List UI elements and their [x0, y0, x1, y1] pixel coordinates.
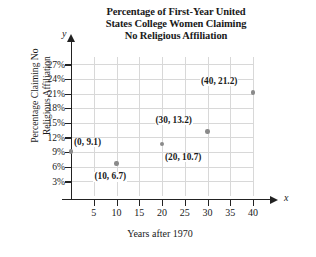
data-point	[114, 161, 118, 165]
y-axis-tick-label: 6%	[35, 162, 65, 172]
gridline-horizontal	[71, 167, 253, 168]
data-point-label: (10, 6.7)	[93, 172, 127, 181]
y-axis-line	[71, 40, 72, 200]
x-axis-tick-mark	[162, 200, 163, 206]
x-axis-tick-mark	[139, 200, 140, 206]
y-axis-tick-mark	[65, 167, 71, 168]
y-axis-tick-label: 27%	[35, 60, 65, 70]
data-point	[205, 129, 209, 133]
y-axis-tick-mark	[65, 123, 71, 124]
y-axis-tick-mark	[65, 108, 71, 109]
data-point-label: (40, 21.2)	[200, 77, 238, 86]
y-axis-tick-label: 18%	[35, 103, 65, 113]
x-axis-tick-label: 35	[218, 208, 242, 218]
y-axis-letter: y	[62, 28, 66, 39]
y-axis-tick-mark	[65, 94, 71, 95]
x-axis-tick-label: 25	[173, 208, 197, 218]
x-axis-tick-mark	[117, 200, 118, 206]
x-axis-letter: x	[284, 192, 288, 203]
gridline-horizontal	[71, 108, 253, 109]
data-point-label: (30, 13.2)	[155, 116, 193, 125]
y-axis-arrow-icon	[67, 34, 75, 42]
y-axis-tick-mark	[65, 79, 71, 80]
gridline-vertical	[139, 57, 140, 196]
x-axis-title: Years after 1970	[60, 228, 260, 239]
y-axis-tick-mark	[65, 181, 71, 182]
chart-title: Percentage of First-Year United States C…	[70, 6, 282, 43]
x-axis-tick-mark	[185, 200, 186, 206]
x-axis-tick-mark	[208, 200, 209, 206]
x-axis-tick-mark	[94, 200, 95, 206]
y-axis-tick-label: 12%	[35, 133, 65, 143]
chart-title-line-2: States College Women Claiming	[70, 18, 282, 30]
data-point	[69, 149, 73, 153]
x-axis-tick-label: 10	[105, 208, 129, 218]
chart-title-line-1: Percentage of First-Year United	[70, 6, 282, 18]
x-axis-tick-mark	[230, 200, 231, 206]
y-axis-tick-mark	[65, 64, 71, 65]
x-axis-tick-label: 40	[241, 208, 265, 218]
x-axis-tick-label: 5	[82, 208, 106, 218]
y-axis-tick-label: 3%	[35, 177, 65, 187]
x-axis-tick-label: 20	[150, 208, 174, 218]
gridline-horizontal	[71, 64, 253, 65]
gridline-horizontal	[71, 94, 253, 95]
gridline-vertical	[185, 57, 186, 196]
y-axis-tick-label: 24%	[35, 74, 65, 84]
x-axis-tick-mark	[253, 200, 254, 206]
data-point-label: (0, 9.1)	[73, 138, 102, 147]
y-axis-tick-label: 9%	[35, 147, 65, 157]
y-axis-tick-mark	[65, 137, 71, 138]
data-point	[251, 90, 255, 94]
data-point-label: (20, 10.7)	[164, 153, 202, 162]
x-axis-tick-label: 30	[196, 208, 220, 218]
y-axis-tick-label: 21%	[35, 89, 65, 99]
y-axis-tick-label: 15%	[35, 118, 65, 128]
chart-title-line-3: No Religious Affiliation	[70, 30, 282, 42]
scatter-plot-figure: Percentage of First-Year United States C…	[0, 0, 316, 257]
gridline-vertical	[162, 57, 163, 196]
x-axis-arrow-icon	[270, 196, 278, 204]
gridline-vertical	[253, 57, 254, 196]
x-axis-tick-label: 15	[127, 208, 151, 218]
gridline-horizontal	[71, 152, 253, 153]
